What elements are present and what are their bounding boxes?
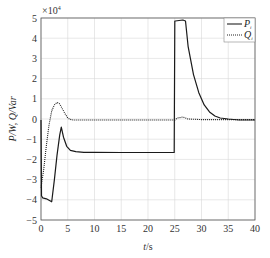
x-tick-label: 40 bbox=[250, 223, 260, 234]
y-tick-label: −3 bbox=[26, 174, 37, 185]
y-axis-label: P/W, Q/Var bbox=[7, 96, 18, 142]
y-multiplier: ×104 bbox=[42, 5, 61, 16]
chart: −5−4−3−2−1012345 0510152025303540 ×104 P… bbox=[0, 0, 270, 258]
y-axis-ticks: −5−4−3−2−1012345 bbox=[26, 13, 37, 226]
legend: Pi Qi bbox=[224, 18, 255, 42]
x-tick-label: 25 bbox=[170, 223, 180, 234]
y-tick-label: 4 bbox=[32, 33, 37, 44]
x-tick-label: 30 bbox=[197, 223, 207, 234]
y-tick-label: −2 bbox=[26, 154, 37, 165]
y-tick-label: −5 bbox=[26, 215, 37, 226]
y-tick-label: −1 bbox=[26, 134, 37, 145]
x-tick-label: 5 bbox=[65, 223, 70, 234]
grid-lines bbox=[41, 18, 255, 220]
y-tick-label: 1 bbox=[32, 93, 37, 104]
x-axis-ticks: 0510152025303540 bbox=[39, 223, 261, 234]
y-tick-label: −4 bbox=[26, 194, 37, 205]
x-tick-label: 35 bbox=[223, 223, 233, 234]
y-tick-label: 5 bbox=[32, 13, 37, 24]
y-tick-label: 0 bbox=[32, 114, 37, 125]
x-tick-label: 20 bbox=[143, 223, 153, 234]
y-tick-label: 3 bbox=[32, 53, 37, 64]
x-tick-label: 0 bbox=[39, 223, 44, 234]
x-axis-label: t/s bbox=[143, 241, 153, 252]
x-tick-label: 15 bbox=[116, 223, 126, 234]
y-tick-label: 2 bbox=[32, 73, 37, 84]
x-tick-label: 10 bbox=[90, 223, 100, 234]
